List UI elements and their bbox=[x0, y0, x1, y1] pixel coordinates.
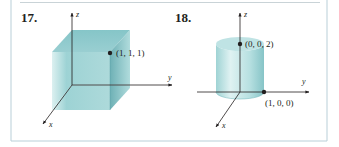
z-axis-label: z bbox=[75, 10, 80, 19]
x-axis-label: x bbox=[221, 121, 226, 130]
point-label: (1, 1, 1) bbox=[116, 48, 145, 58]
z-axis-label: z bbox=[243, 10, 248, 19]
x-axis-label: x bbox=[48, 120, 53, 129]
point-marker bbox=[108, 51, 112, 55]
exercise-number: 18. bbox=[175, 10, 191, 25]
y-axis-label: y bbox=[167, 73, 172, 82]
exercise-figures: 17. z y x (1, 1, 1) 18. z y x bbox=[0, 0, 339, 147]
panel-17-cube: 17. z y x (1, 1, 1) bbox=[21, 10, 172, 129]
exercise-number: 17. bbox=[21, 10, 37, 25]
point-label-y: (1, 0, 0) bbox=[265, 98, 294, 108]
panel-18-cylinder: 18. z y x (0, 0, 2) (1, 0, 0) bbox=[175, 10, 309, 130]
point-marker-top bbox=[238, 42, 242, 46]
point-marker-y bbox=[262, 90, 266, 94]
y-axis-label: y bbox=[301, 77, 306, 86]
cube-front-face bbox=[52, 52, 110, 110]
point-label-top: (0, 0, 2) bbox=[245, 39, 274, 49]
